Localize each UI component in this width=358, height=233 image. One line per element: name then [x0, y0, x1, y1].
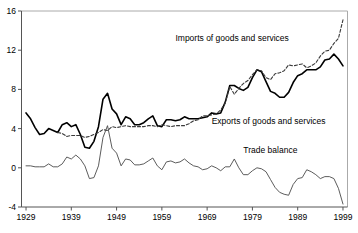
x-tick-label: 1929 [17, 212, 36, 222]
y-tick-label: 12 [7, 45, 17, 55]
x-tick-label: 1959 [152, 212, 171, 222]
data-series-group [26, 20, 343, 204]
x-tick-label: 1949 [107, 212, 126, 222]
y-tick-label: 0 [11, 163, 16, 173]
y-tick-label: 4 [11, 124, 16, 134]
series-path-2 [26, 126, 343, 204]
series-path-0 [26, 54, 343, 148]
exports-label: Exports of goods and services [212, 116, 326, 126]
y-tick-label: 8 [11, 84, 16, 94]
line-chart: -40481216 192919391949195919691979198919… [0, 0, 358, 233]
x-tick-label: 1979 [243, 212, 262, 222]
y-tick-label: 16 [7, 6, 17, 16]
trade-balance-label: Trade balance [243, 145, 297, 155]
x-axis-ticks: 19291939194919591969197919891999 [17, 207, 353, 222]
x-tick-label: 1999 [334, 212, 353, 222]
x-tick-label: 1939 [62, 212, 81, 222]
chart-container: -40481216 192919391949195919691979198919… [0, 0, 358, 233]
imports-label: Imports of goods and services [175, 33, 288, 43]
y-axis-ticks: -40481216 [7, 6, 22, 212]
series-annotations: Imports of goods and servicesExports of … [175, 33, 325, 155]
y-tick-label: -4 [8, 202, 16, 212]
x-tick-label: 1989 [288, 212, 307, 222]
x-tick-label: 1969 [198, 212, 217, 222]
